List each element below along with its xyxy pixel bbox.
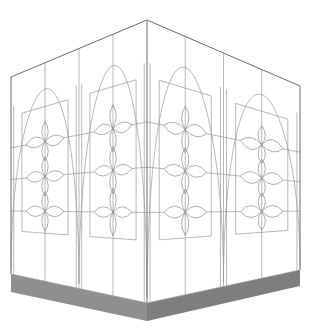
connector-line: [147, 122, 164, 125]
left-face: [11, 34, 147, 302]
petal-left: [240, 205, 261, 217]
figure: Isometric box with ornamental quatrefoil…: [0, 0, 314, 332]
petal-right: [185, 206, 206, 218]
petal-right: [45, 171, 64, 182]
connector-line: [79, 132, 94, 135]
petal-left: [164, 164, 185, 176]
connector-line: [224, 137, 241, 140]
petal-left: [164, 122, 185, 134]
connector-line: [147, 167, 164, 169]
connector-line: [224, 174, 241, 176]
box-illustration: [0, 0, 314, 332]
petal-left: [94, 165, 113, 176]
petal-left: [94, 207, 113, 218]
petal-left: [26, 206, 45, 217]
petal-right: [185, 124, 206, 136]
connector-line: [79, 172, 94, 173]
petal-left: [164, 206, 185, 218]
connector-line: [64, 173, 79, 174]
petal-right: [45, 206, 64, 217]
left-face-panel-1: [11, 63, 79, 284]
connector-line: [64, 135, 79, 138]
left-face-panel-2: [79, 34, 147, 297]
connector-line: [11, 145, 26, 148]
connector-line: [283, 180, 300, 182]
petal-left: [26, 171, 45, 182]
petal-right: [45, 135, 64, 146]
connector-line: [283, 149, 300, 152]
petal-left: [26, 137, 45, 148]
petal-left: [94, 124, 113, 135]
connector-line: [207, 134, 224, 137]
connector-line: [132, 122, 147, 125]
right-face-panel-2: [224, 70, 301, 282]
connector-line: [11, 178, 26, 179]
connector-line: [207, 173, 224, 175]
petal-right: [185, 165, 206, 177]
right-face-panel-1: [147, 37, 224, 298]
petal-right: [113, 122, 132, 133]
petal-right: [262, 205, 283, 217]
petal-right: [262, 173, 283, 185]
petal-left: [240, 171, 261, 183]
connector-line: [132, 167, 147, 168]
petal-right: [113, 164, 132, 175]
petal-right: [113, 207, 132, 218]
